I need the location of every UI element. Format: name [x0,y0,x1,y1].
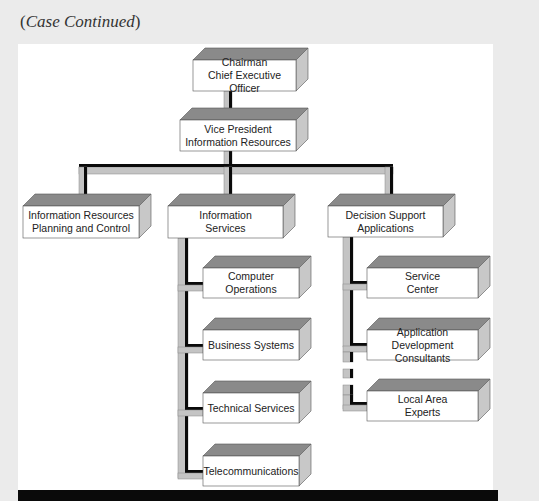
org-node-dsa: Decision SupportApplications [328,206,443,237]
org-box-lae-top [367,379,490,391]
org-node-label-line: Business Systems [208,339,294,352]
org-node-label-line: Technical Services [208,402,295,415]
org-box-irpc-top [23,194,151,206]
org-node-label-line: Information [199,209,252,222]
org-node-sc: ServiceCenter [367,268,478,298]
org-node-label-line: Applications [346,222,426,235]
connector-branch-lae [343,405,367,411]
org-node-bs: Business Systems [203,330,299,360]
connector-branch-sc [343,284,367,290]
connector-to-is-shadow [229,167,232,196]
connector-branch-ts-shadow [185,407,203,410]
org-node-vp: Vice PresidentInformation Resources [180,120,296,151]
org-node-label-line: Consultants [367,352,478,365]
org-box-dsa-top [328,194,455,206]
connector-dsa-dashed-2-shadow [350,385,353,395]
org-node-label-line: Chief Executive Officer [193,69,296,95]
connector-level2-horizontal [79,167,393,174]
org-node-is: InformationServices [168,206,283,238]
org-node-label-line: Telecommunications [203,465,298,478]
org-node-label-line: Decision Support [346,209,426,222]
org-node-ts: Technical Services [203,393,299,423]
connector-is-trunk-shadow [185,238,188,474]
org-node-irpc: Information ResourcesPlanning and Contro… [23,206,139,238]
connector-level2-horizontal-shadow [79,164,393,167]
org-node-label-line: Local Area [398,393,448,406]
org-box-bs-top [203,318,311,330]
connector-branch-ts [178,410,203,416]
org-node-label-line: Experts [398,406,448,419]
connector-branch-bs-shadow [185,344,203,347]
org-node-label-line: Computer Operations [203,270,299,296]
connector-dsa-trunk-shadow [350,237,353,344]
org-node-label-line: Vice President [185,123,291,136]
org-node-tc: Telecommunications [203,456,299,486]
org-box-ts-top [203,381,311,393]
org-node-co: Computer Operations [203,268,299,298]
org-box-is-top [168,194,295,206]
org-box-vp-top [180,108,308,120]
org-node-label-line: Center [405,283,440,296]
connector-branch-bs [178,347,203,353]
connector-branch-adc [343,346,367,352]
org-node-label-line: Information Resources [185,136,291,149]
org-node-label-line: Service [405,270,440,283]
org-node-lae: Local AreaExperts [367,391,478,421]
connector-branch-tc-shadow [185,470,203,473]
org-node-adc: Application DevelopmentConsultants [367,330,478,360]
connector-dsa-dashed-1-shadow [350,369,353,378]
connector-branch-lae-shadow [350,402,367,405]
connector-to-dsa-shadow [390,167,393,196]
org-node-label-line: Application Development [367,326,478,352]
connector-dsa-dashed-0-shadow [350,352,353,362]
org-node-label-line: Information Resources [28,209,134,222]
connector-branch-sc-shadow [350,281,367,284]
org-node-label-line: Services [199,222,252,235]
org-node-label-line: Planning and Control [28,222,134,235]
connector-branch-co [178,285,203,291]
connector-branch-co-shadow [185,282,203,285]
org-box-sc-top [367,256,490,268]
org-box-tc-top [203,444,311,456]
org-node-label-line: Chairman [193,56,296,69]
org-box-co-top [203,256,311,268]
connector-branch-adc-shadow [350,343,367,346]
connector-branch-tc [178,473,203,479]
connector-to-irpc-shadow [84,167,87,196]
org-node-ceo: ChairmanChief Executive Officer [193,60,296,91]
